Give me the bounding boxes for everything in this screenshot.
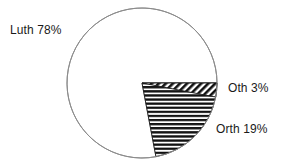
slice-label-orth: Orth 19% xyxy=(216,123,268,136)
pie-slices xyxy=(67,8,217,158)
pie-chart-figure: Luth 78% Oth 3% Orth 19% xyxy=(0,0,287,166)
slice-label-oth: Oth 3% xyxy=(228,82,269,95)
slice-label-luth: Luth 78% xyxy=(10,24,62,37)
